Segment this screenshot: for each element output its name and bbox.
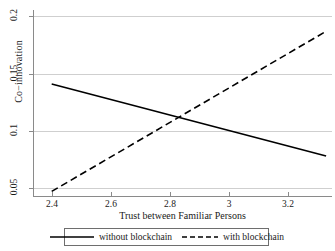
x-axis-title: Trust between Familiar Persons — [33, 210, 332, 221]
legend-label-with-blockchain: with blockchain — [223, 232, 284, 242]
series-line-without-blockchain — [52, 84, 326, 156]
series-line-with-blockchain — [52, 31, 326, 191]
chart-legend: without blockchain with blockchain — [64, 228, 269, 246]
legend-item-without-blockchain: without blockchain — [49, 232, 172, 242]
legend-dashed-line-icon — [181, 233, 219, 241]
co-innovation-line-chart: Co−innovation 0.050.10.150.2 2.42.62.833… — [0, 0, 335, 251]
legend-label-without-blockchain: without blockchain — [99, 232, 172, 242]
legend-solid-line-icon — [49, 233, 95, 241]
legend-item-with-blockchain: with blockchain — [181, 232, 284, 242]
